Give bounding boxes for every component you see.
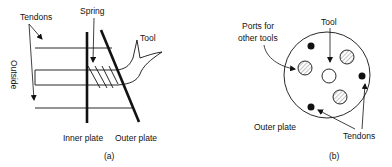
tool-head: [118, 40, 162, 85]
tendons-arrow-bottom: [29, 24, 34, 100]
outer-plate-label-b: Outer plate: [254, 122, 296, 132]
ports-label-line2: other tools: [238, 33, 278, 43]
tendons-label-a: Tendons: [20, 12, 52, 22]
caption-a: (a): [104, 151, 115, 161]
tool-label-b: Tool: [321, 17, 337, 27]
caption-b: (b): [329, 151, 340, 161]
figure-a: Tendons Spring Tool Outside Inner plate …: [9, 6, 162, 161]
tendons-arrow-top: [29, 24, 42, 39]
figure-b: Ports for other tools Tool Outer plate T…: [238, 17, 375, 161]
spring-arrow: [93, 18, 94, 62]
tendon-dot-top: [308, 43, 315, 50]
tendon-dot-bottom: [308, 104, 315, 111]
ports-label-line1: Ports for: [242, 21, 274, 31]
other-tool-port-top-right: [340, 50, 354, 64]
tendons-arrow-to-bottom: [318, 110, 355, 129]
tool-port: [322, 69, 336, 83]
tendon-dot-right: [359, 73, 366, 80]
tendons-arrow-to-right: [362, 84, 365, 129]
figure-canvas: Tendons Spring Tool Outside Inner plate …: [0, 0, 392, 167]
ports-arrow: [264, 45, 295, 69]
outer-plate-label-a: Outer plate: [115, 133, 157, 143]
other-tool-port-bottom: [333, 90, 347, 104]
outside-label: Outside: [9, 60, 19, 90]
inner-plate-label: Inner plate: [63, 133, 103, 143]
tendons-label-b: Tendons: [343, 131, 375, 141]
spring-label: Spring: [80, 6, 105, 16]
tool-label-a: Tool: [140, 33, 156, 43]
other-tool-port-left: [298, 61, 312, 75]
